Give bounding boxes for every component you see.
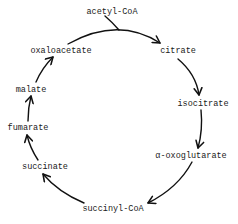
node-malate: malate: [16, 85, 47, 95]
arrow-succinyl-coa-to-succinate: [43, 174, 84, 203]
arrow-acetyl-coa-input: [105, 16, 119, 30]
node-alpha-oxoglutarate: α-oxoglutarate: [155, 151, 226, 161]
node-succinate: succinate: [22, 162, 68, 172]
arrow-alpha-oxoglutarate-to-succinyl-coa: [148, 162, 192, 203]
citric-acid-cycle-diagram: acetyl-CoA oxaloacetate citrate isocitra…: [0, 0, 238, 224]
node-oxaloacetate: oxaloacetate: [30, 46, 91, 56]
node-succinyl-coa: succinyl-CoA: [82, 204, 144, 214]
arrow-succinate-to-fumarate: [27, 135, 38, 160]
arrow-oxaloacetate-to-citrate: [68, 30, 160, 44]
arrow-malate-to-oxaloacetate: [36, 57, 53, 82]
node-acetyl-coa: acetyl-CoA: [86, 7, 138, 17]
node-fumarate: fumarate: [8, 123, 49, 133]
node-isocitrate: isocitrate: [177, 99, 228, 109]
arrow-fumarate-to-malate: [28, 96, 31, 121]
arrow-citrate-to-isocitrate: [178, 59, 199, 95]
node-citrate: citrate: [160, 46, 196, 56]
arrow-isocitrate-to-alpha-oxoglutarate: [198, 110, 202, 148]
